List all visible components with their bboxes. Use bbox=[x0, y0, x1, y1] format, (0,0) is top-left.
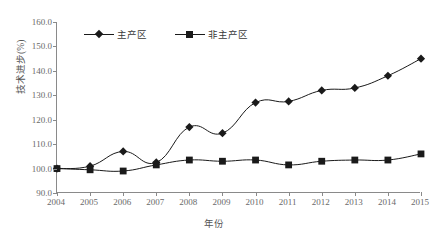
series-line bbox=[57, 59, 421, 169]
legend-line-swatch bbox=[84, 30, 114, 39]
x-axis-tick-mark bbox=[256, 192, 257, 196]
data-point-square bbox=[418, 151, 425, 158]
y-axis-tick-label: 150.0 bbox=[18, 42, 52, 51]
x-axis-tick-mark bbox=[222, 192, 223, 196]
legend-entry-1[interactable]: 主产区 bbox=[84, 27, 147, 41]
y-axis-tick-label: 160.0 bbox=[18, 18, 52, 27]
y-axis-tick-mark bbox=[53, 144, 57, 145]
legend-marker-square-icon bbox=[186, 31, 193, 38]
x-axis-tick-mark bbox=[57, 192, 58, 196]
x-axis-tick-mark bbox=[90, 192, 91, 196]
legend-entry-2[interactable]: 非主产区 bbox=[175, 27, 248, 41]
data-point-diamond bbox=[285, 97, 293, 105]
y-axis-tick-mark bbox=[53, 22, 57, 23]
y-axis-tick-mark bbox=[53, 95, 57, 96]
x-axis-tick-mark bbox=[123, 192, 124, 196]
y-axis-tick-label: 130.0 bbox=[18, 91, 52, 100]
chart-legend: 主产区非主产区 bbox=[84, 27, 248, 41]
y-axis-tick-mark bbox=[53, 169, 57, 170]
x-axis-tick-label: 2015 bbox=[400, 198, 434, 207]
data-point-square bbox=[285, 162, 292, 169]
data-point-square bbox=[252, 157, 259, 164]
data-point-diamond bbox=[318, 86, 326, 94]
data-point-diamond bbox=[185, 123, 193, 131]
data-point-diamond bbox=[218, 129, 226, 137]
data-point-square bbox=[120, 168, 127, 175]
legend-label: 非主产区 bbox=[208, 27, 248, 41]
y-axis-tick-label: 120.0 bbox=[18, 115, 52, 124]
y-axis-tick-label: 140.0 bbox=[18, 66, 52, 75]
data-point-square bbox=[219, 158, 226, 165]
plot-area bbox=[56, 22, 420, 193]
data-point-diamond bbox=[417, 55, 425, 63]
data-point-square bbox=[186, 157, 193, 164]
legend-label: 主产区 bbox=[117, 27, 147, 41]
x-axis-tick-mark bbox=[156, 192, 157, 196]
x-axis-title: 年份 bbox=[0, 216, 428, 230]
series-line bbox=[57, 154, 421, 171]
x-axis-tick-mark bbox=[189, 192, 190, 196]
y-axis-tick-mark bbox=[53, 120, 57, 121]
y-axis-tick-label: 110.0 bbox=[18, 140, 52, 149]
data-point-square bbox=[87, 166, 94, 173]
series-layer bbox=[57, 22, 421, 193]
x-axis-tick-mark bbox=[289, 192, 290, 196]
y-axis-tick-label: 100.0 bbox=[18, 164, 52, 173]
x-axis-tick-mark bbox=[355, 192, 356, 196]
data-point-diamond bbox=[384, 72, 392, 80]
series-1 bbox=[53, 55, 425, 173]
data-point-square bbox=[153, 162, 160, 169]
data-point-square bbox=[351, 157, 358, 164]
series-2 bbox=[54, 151, 425, 175]
x-axis-tick-mark bbox=[421, 192, 422, 196]
data-point-diamond bbox=[251, 99, 259, 107]
legend-line-swatch bbox=[175, 30, 205, 39]
x-axis-tick-mark bbox=[388, 192, 389, 196]
y-axis-tick-mark bbox=[53, 71, 57, 72]
data-point-square bbox=[385, 157, 392, 164]
data-point-diamond bbox=[351, 84, 359, 92]
legend-marker-diamond-icon bbox=[95, 30, 103, 38]
x-axis-tick-mark bbox=[322, 192, 323, 196]
data-point-diamond bbox=[119, 147, 127, 155]
y-axis-tick-mark bbox=[53, 46, 57, 47]
data-point-square bbox=[318, 158, 325, 165]
